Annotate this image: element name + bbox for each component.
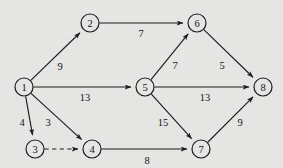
graph-node-1: 1 (15, 78, 33, 96)
node-label-4: 4 (89, 144, 95, 155)
node-label-6: 6 (194, 18, 199, 29)
node-label-1: 1 (21, 82, 26, 93)
graph-edge-6-8 (204, 30, 253, 78)
edge-weight-1-2: 9 (57, 61, 62, 72)
graph-node-6: 6 (188, 14, 206, 32)
graph-node-4: 4 (83, 140, 101, 158)
edge-weight-2-6: 7 (138, 28, 143, 39)
edge-weight-5-7: 15 (158, 117, 169, 128)
graph-node-8: 8 (254, 78, 272, 96)
edge-weight-1-5: 13 (80, 92, 91, 103)
edge-weight-1-4: 3 (45, 117, 50, 128)
graph-node-7: 7 (192, 140, 210, 158)
node-label-5: 5 (142, 82, 147, 93)
edge-weight-1-3: 4 (19, 117, 25, 128)
graph-canvas: 97137513438159 12345678 (0, 0, 283, 168)
graph-edge-5-6 (151, 34, 188, 80)
edge-weight-5-6: 7 (172, 60, 177, 71)
graph-edge-7-8 (208, 97, 253, 142)
edge-weight-4-7: 8 (144, 155, 149, 166)
edge-weight-6-8: 5 (219, 60, 224, 71)
edge-weight-7-8: 9 (237, 117, 242, 128)
graph-node-3: 3 (26, 140, 44, 158)
graph-edge-1-4 (31, 93, 82, 139)
edge-weight-5-8: 13 (200, 92, 211, 103)
graph-diagram: 97137513438159 12345678 (0, 0, 283, 168)
node-label-8: 8 (260, 82, 265, 93)
graph-edge-1-2 (31, 33, 80, 81)
node-label-2: 2 (87, 18, 92, 29)
node-label-3: 3 (32, 144, 37, 155)
graph-edge-1-3 (26, 96, 33, 135)
node-label-7: 7 (198, 144, 203, 155)
graph-node-5: 5 (136, 78, 154, 96)
graph-node-2: 2 (81, 14, 99, 32)
